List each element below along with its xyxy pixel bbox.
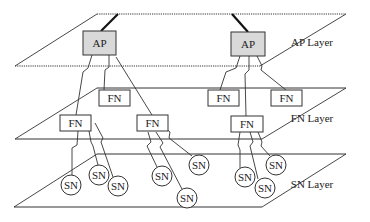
sn-node-label: SN [111,180,125,192]
sn-node-label: SN [192,159,206,171]
fn-node-label: FN [107,92,121,104]
sn-node: SN [108,176,128,196]
uplinks [101,14,248,32]
fn-node-label: FN [279,92,293,104]
link-line [147,132,157,167]
layer-label-fn: FN Layer [291,112,334,124]
sn-node-label: SN [269,159,283,171]
sn-node: SN [255,178,275,198]
layer-labels: AP LayerFN LayerSN Layer [291,36,334,190]
link-line [238,132,240,168]
fn-node: FN [99,90,130,106]
link-line [104,55,109,90]
sn-node: SN [89,165,109,185]
ap-nodes: APAP [83,31,265,56]
fn-node: FN [60,115,91,131]
sn-node-label: SN [92,169,106,181]
sn-node-label: SN [155,170,169,182]
ap-node: AP [83,31,116,55]
uplink-line [232,14,248,32]
sn-node: SN [235,167,255,187]
sn-node: SN [152,166,172,186]
sn-node-label: SN [64,179,78,191]
uplink-line [101,14,118,31]
fn-node-label: FN [68,117,82,129]
sn-nodes: SNSNSNSNSNSNSNSNSN [61,155,286,208]
link-line [89,131,98,165]
layer-label-ap: AP Layer [291,36,333,48]
sn-node: SN [177,188,197,208]
network-layer-diagram: APAP FNFNFNFNFNFN SNSNSNSNSNSNSNSNSN AP … [0,0,370,222]
sn-node: SN [189,155,209,175]
ap-node-label: AP [241,38,255,50]
fn-node: FN [137,115,168,131]
fn-node-label: FN [216,92,230,104]
fn-node: FN [231,116,263,132]
fn-node-label: FN [145,117,159,129]
link-line [76,55,92,115]
sn-node: SN [61,175,81,195]
ap-node-label: AP [92,37,106,49]
fn-node-label: FN [240,118,254,130]
link-line [257,56,286,90]
diagram-canvas: APAP FNFNFNFNFNFN SNSNSNSNSNSNSNSNSN AP … [0,0,370,222]
fn-node: FN [271,90,302,106]
sn-node-label: SN [180,192,194,204]
sn-node: SN [266,155,286,175]
link-line [220,56,240,90]
fn-node: FN [208,90,239,106]
sn-node-label: SN [238,171,252,183]
link-line [245,56,249,116]
sn-node-label: SN [258,182,272,194]
ap-node: AP [231,32,265,56]
layer-label-sn: SN Layer [291,178,334,190]
